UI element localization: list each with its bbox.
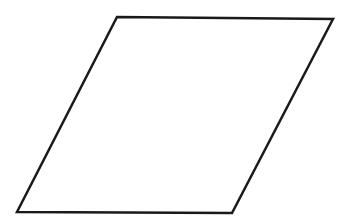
drawing-canvas — [0, 0, 339, 217]
parallelogram-figure — [0, 0, 339, 217]
